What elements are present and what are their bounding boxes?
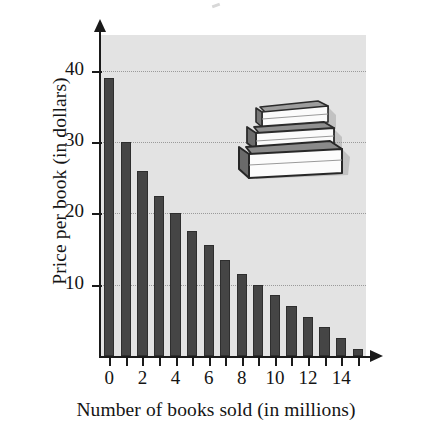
x-tick-14 (341, 357, 343, 366)
x-tick-label: 14 (326, 367, 356, 389)
bar (154, 196, 164, 357)
x-tick-12 (308, 357, 310, 366)
stack-of-books-illustration (232, 95, 354, 187)
bar (104, 78, 114, 356)
y-tick-label: 10 (38, 272, 84, 294)
x-tick-label: 6 (194, 367, 224, 389)
bar (121, 142, 131, 356)
y-tick-20 (92, 213, 102, 215)
y-tick-label: 40 (38, 58, 84, 80)
x-tick-13 (325, 357, 327, 366)
x-tick-label: 10 (260, 367, 290, 389)
bar (253, 285, 263, 356)
bar (286, 306, 296, 356)
y-tick-label: 30 (38, 129, 84, 151)
bar (220, 260, 230, 356)
x-tick-label: 2 (127, 367, 157, 389)
bar (170, 213, 180, 356)
x-tick-8 (242, 357, 244, 366)
x-tick-5 (192, 357, 194, 366)
x-tick-label: 0 (94, 367, 124, 389)
bar (353, 349, 363, 356)
y-tick-30 (92, 142, 102, 144)
x-tick-7 (225, 357, 227, 366)
x-tick-4 (176, 357, 178, 366)
y-axis-line (99, 28, 101, 358)
x-tick-label: 12 (293, 367, 323, 389)
large-book (239, 141, 342, 178)
x-tick-10 (275, 357, 277, 366)
bar (204, 245, 214, 356)
x-axis-line (99, 356, 373, 358)
bar (336, 338, 346, 356)
bar-series (101, 35, 366, 356)
x-tick-label: 8 (227, 367, 257, 389)
y-tick-10 (92, 285, 102, 287)
bar-chart-figure: Price per book (in dollars) Number of bo… (0, 0, 432, 440)
y-tick-40 (92, 71, 102, 73)
plot-inner (101, 35, 366, 356)
bar (319, 327, 329, 356)
y-tick-label: 20 (38, 200, 84, 222)
x-tick-15 (358, 357, 360, 366)
x-tick-6 (209, 357, 211, 366)
bar (270, 295, 280, 356)
x-tick-0 (109, 357, 111, 366)
paper-speck (212, 3, 221, 9)
x-tick-9 (258, 357, 260, 366)
plot-area (101, 35, 366, 356)
x-axis-arrowhead (370, 350, 383, 362)
x-tick-label: 4 (161, 367, 191, 389)
bar (137, 171, 147, 356)
y-axis-arrowhead (94, 19, 106, 32)
x-axis-title: Number of books sold (in millions) (0, 399, 432, 421)
bar (237, 274, 247, 356)
x-tick-11 (291, 357, 293, 366)
bar (303, 317, 313, 356)
bar (187, 231, 197, 356)
x-tick-2 (142, 357, 144, 366)
x-tick-3 (159, 357, 161, 366)
x-tick-1 (126, 357, 128, 366)
